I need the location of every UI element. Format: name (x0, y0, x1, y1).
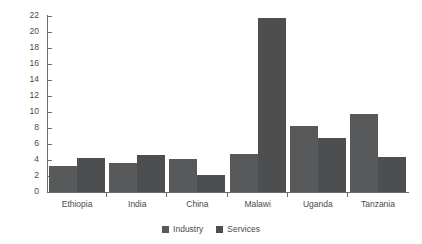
bar-pair (107, 16, 167, 192)
bar-pair (167, 16, 227, 192)
legend-label: Services (227, 224, 260, 234)
x-tick-mark (347, 192, 348, 197)
x-axis-label: Ethiopia (47, 199, 107, 209)
bar-services[interactable] (258, 18, 286, 192)
bar-industry[interactable] (230, 154, 258, 192)
y-tick-label: 10 (30, 106, 39, 117)
bar-pair (288, 16, 348, 192)
y-tick-label: 20 (30, 26, 39, 37)
chart-legend: IndustryServices (0, 224, 422, 234)
bar-group (288, 16, 348, 192)
bar-industry[interactable] (350, 114, 378, 192)
bar-industry[interactable] (109, 163, 137, 192)
x-tick-mark (227, 192, 228, 197)
plot-area: 0246810121416182022 (47, 16, 408, 192)
legend-swatch-icon (162, 226, 169, 233)
x-axis-label: Tanzania (348, 199, 408, 209)
y-tick-label: 18 (30, 42, 39, 53)
bar-pair (228, 16, 288, 192)
bar-group (107, 16, 167, 192)
legend-item[interactable]: Industry (162, 224, 203, 234)
bar-services[interactable] (378, 157, 406, 192)
bar-group (348, 16, 408, 192)
y-tick-label: 22 (30, 10, 39, 21)
x-axis-line (47, 192, 409, 193)
y-tick-label: 0 (34, 186, 39, 197)
x-tick-mark (166, 192, 167, 197)
x-axis-labels: EthiopiaIndiaChinaMalawiUgandaTanzania (47, 199, 408, 209)
legend-label: Industry (173, 224, 203, 234)
x-axis-label: India (107, 199, 167, 209)
x-axis-label: Malawi (228, 199, 288, 209)
y-tick-label: 16 (30, 58, 39, 69)
bar-services[interactable] (137, 155, 165, 192)
bar-industry[interactable] (49, 166, 77, 192)
x-axis-label: China (167, 199, 227, 209)
bar-pair (348, 16, 408, 192)
bar-chart: Agriculture productivity gap 02468101214… (0, 0, 422, 244)
bar-group (167, 16, 227, 192)
bar-group (47, 16, 107, 192)
bar-group (228, 16, 288, 192)
legend-swatch-icon (216, 226, 223, 233)
y-tick-label: 6 (34, 138, 39, 149)
x-tick-mark (106, 192, 107, 197)
bar-services[interactable] (197, 175, 225, 192)
bar-industry[interactable] (290, 126, 318, 192)
y-tick-label: 12 (30, 90, 39, 101)
x-tick-mark (287, 192, 288, 197)
bar-pair (47, 16, 107, 192)
bar-industry[interactable] (169, 159, 197, 192)
y-tick-label: 14 (30, 74, 39, 85)
bar-groups (47, 16, 408, 192)
x-axis-label: Uganda (288, 199, 348, 209)
y-tick-label: 2 (34, 170, 39, 181)
bar-services[interactable] (318, 138, 346, 192)
legend-item[interactable]: Services (216, 224, 260, 234)
y-tick-label: 8 (34, 122, 39, 133)
bar-services[interactable] (77, 158, 105, 192)
y-tick-label: 4 (34, 154, 39, 165)
